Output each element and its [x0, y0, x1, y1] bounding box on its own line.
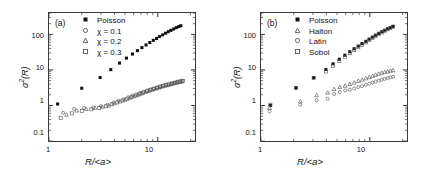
y-axis-exponent: 2 — [230, 79, 237, 83]
panel-a: σ2(R) 100 10 1 0.1 1 10 R/<a> (a) Poisso… — [0, 0, 211, 178]
panel-a-ytick-100: 100 — [18, 31, 44, 40]
panel-b-scatter-canvas — [261, 13, 407, 141]
panel-a-scatter-canvas — [49, 13, 195, 141]
panel-a-x-axis-label: R/<a> — [85, 156, 111, 167]
series-poisson — [56, 24, 182, 105]
panel-b-xtick-1: 1 — [250, 145, 270, 154]
figure-root: σ2(R) 100 10 1 0.1 1 10 R/<a> (a) Poisso… — [0, 0, 423, 178]
series-halton — [268, 68, 395, 109]
series-latin — [268, 75, 395, 113]
panel-a-xtick-1: 1 — [38, 145, 58, 154]
panel-a-ytick-0.1: 0.1 — [14, 128, 44, 137]
panel-b-x-axis-label: R/<a> — [297, 156, 323, 167]
panel-b-ytick-10: 10 — [230, 63, 256, 72]
panel-a-ytick-10: 10 — [18, 63, 44, 72]
panel-b-ytick-1: 1 — [230, 96, 256, 105]
y-axis-exponent: 2 — [18, 79, 25, 83]
panel-a-ytick-1: 1 — [18, 96, 44, 105]
y-axis-sigma: σ — [232, 83, 242, 88]
panel-b: σ2(R) 100 10 1 0.1 1 10 R/<a> (b) Poisso… — [212, 0, 423, 178]
panel-b-plot-area: (b) Poisson Halton — [260, 12, 408, 142]
y-axis-sigma: σ — [20, 83, 30, 88]
series-sobol — [269, 25, 395, 106]
panel-a-plot-area: (a) Poisson χ = 0.1 — [48, 12, 196, 142]
panel-b-ytick-100: 100 — [230, 31, 256, 40]
panel-b-ytick-0.1: 0.1 — [226, 128, 256, 137]
panel-b-xtick-10: 10 — [351, 145, 371, 154]
panel-a-xtick-10: 10 — [139, 145, 159, 154]
series-chi-0-1 — [62, 79, 184, 114]
